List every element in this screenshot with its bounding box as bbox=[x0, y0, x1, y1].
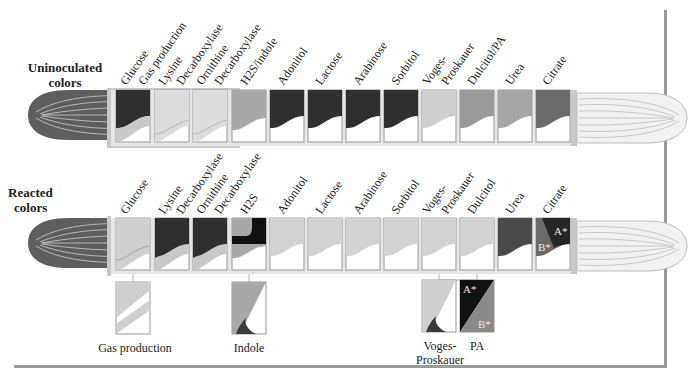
pa-marker-a: A* bbox=[463, 283, 476, 295]
caption-gas-production: Gas production bbox=[85, 341, 185, 355]
citrate-marker-b: B* bbox=[538, 241, 551, 253]
caption-vp-line2: Proskauer bbox=[412, 353, 468, 367]
caption-voges-proskauer: Voges- Proskauer bbox=[412, 339, 468, 367]
detail-gas-production bbox=[116, 282, 150, 334]
pa-marker-b: B* bbox=[478, 318, 491, 330]
detail-voges-proskauer bbox=[422, 280, 456, 332]
caption-indole: Indole bbox=[219, 341, 279, 355]
caption-vp-line1: Voges- bbox=[412, 339, 468, 353]
caption-pa: PA bbox=[462, 339, 492, 353]
citrate-marker-a: A* bbox=[554, 225, 567, 237]
detail-indole bbox=[232, 282, 266, 334]
enterotube-diagram: A* B* A* B* bbox=[0, 0, 691, 392]
